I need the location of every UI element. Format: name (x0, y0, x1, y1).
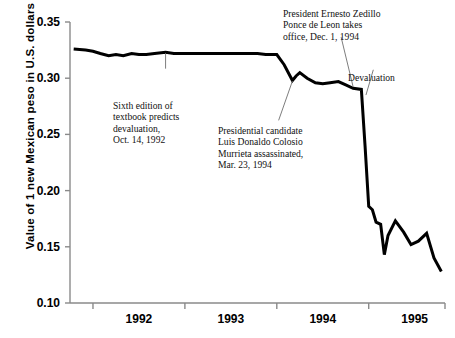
x-axis-tick-label: 1995 (380, 312, 450, 326)
y-axis-tick-label: 0.30 (18, 71, 60, 85)
annotation-colosio-assassination: Presidential candidate Luis Donaldo Colo… (218, 125, 303, 170)
y-axis-tick-label: 0.15 (18, 240, 60, 254)
chart-figure: Value of 1 new Mexican peso in U.S. doll… (0, 0, 455, 338)
annotation-leader-line-colosio-assassination (279, 81, 293, 120)
y-axis-tick-label: 0.10 (18, 296, 60, 310)
y-axis-tick-label: 0.20 (18, 184, 60, 198)
annotation-devaluation: Devaluation (348, 72, 395, 83)
x-axis-tick-label: 1992 (104, 312, 174, 326)
y-axis-tick-label: 0.25 (18, 127, 60, 141)
annotation-zedillo-takes-office: President Ernesto Zedillo Ponce de Leon … (283, 8, 381, 42)
y-axis-tick-label: 0.35 (18, 15, 60, 29)
x-axis-tick-label: 1993 (196, 312, 266, 326)
annotation-textbook-prediction: Sixth edition of textbook predicts deval… (113, 100, 179, 145)
x-axis-tick-label: 1994 (288, 312, 358, 326)
